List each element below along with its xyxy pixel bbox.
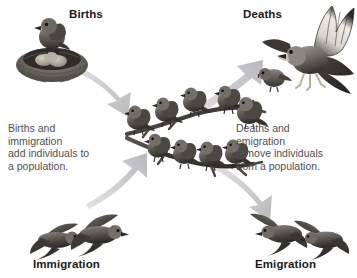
caption-removals: Deaths and emigration remove individuals… xyxy=(236,122,323,172)
emigration-illustration xyxy=(250,208,356,262)
sparrow-lower-1 xyxy=(144,134,175,162)
label-deaths: Deaths xyxy=(243,8,282,20)
births-illustration xyxy=(8,10,100,86)
label-emigration: Emigration xyxy=(255,258,316,270)
caption-additions: Births and immigration add individuals t… xyxy=(8,122,89,172)
label-immigration: Immigration xyxy=(33,258,100,270)
label-births: Births xyxy=(69,8,103,20)
population-change-diagram: Births Deaths Immigration Emigration Bir… xyxy=(0,0,357,278)
immigration-illustration xyxy=(30,210,138,262)
